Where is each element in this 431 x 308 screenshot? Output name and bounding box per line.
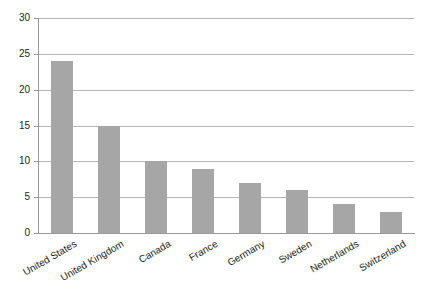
y-tick-label: 30 bbox=[0, 13, 30, 23]
x-axis-line bbox=[38, 233, 415, 234]
bar bbox=[286, 190, 308, 233]
bar bbox=[239, 183, 261, 233]
y-tick-label: 25 bbox=[0, 49, 30, 59]
y-tick-label: 5 bbox=[0, 192, 30, 202]
bar bbox=[51, 61, 73, 233]
y-tick-label: 20 bbox=[0, 85, 30, 95]
bar-chart: 051015202530 United StatesUnited Kingdom… bbox=[0, 0, 431, 308]
y-tick-label: 10 bbox=[0, 156, 30, 166]
bar bbox=[145, 161, 167, 233]
bar-series bbox=[38, 18, 414, 233]
bar bbox=[333, 204, 355, 233]
y-tick-label: 15 bbox=[0, 121, 30, 131]
bar bbox=[380, 212, 402, 234]
bar bbox=[192, 169, 214, 234]
bar bbox=[98, 126, 120, 234]
y-tick-label: 0 bbox=[0, 228, 30, 238]
